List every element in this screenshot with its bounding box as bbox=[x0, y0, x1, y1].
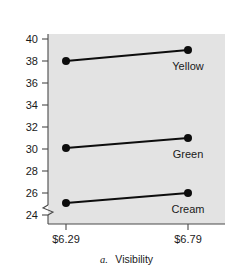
data-point bbox=[184, 189, 192, 197]
y-tick-label-28: 28 bbox=[26, 165, 38, 177]
y-tick-label-30: 30 bbox=[26, 143, 38, 155]
series-label-cream: Cream bbox=[171, 203, 204, 215]
y-tick-label-40: 40 bbox=[26, 33, 38, 45]
x-tick-label-1: $6.29 bbox=[52, 233, 80, 245]
data-point bbox=[184, 134, 192, 142]
y-tick-label-32: 32 bbox=[26, 121, 38, 133]
caption-label: Visibility bbox=[115, 253, 153, 265]
y-tick-label-36: 36 bbox=[26, 77, 38, 89]
y-tick-label-34: 34 bbox=[26, 99, 38, 111]
y-tick-labels: 40 38 36 34 32 30 28 26 24 bbox=[26, 33, 38, 221]
interaction-plot-chart: 40 38 36 34 32 30 28 26 24 $6.29 $6.79 Y… bbox=[0, 0, 235, 277]
caption-prefix: a. bbox=[100, 254, 108, 265]
series-label-green: Green bbox=[173, 148, 204, 160]
y-tick-label-24: 24 bbox=[26, 209, 38, 221]
y-tick-label-38: 38 bbox=[26, 55, 38, 67]
data-point bbox=[62, 57, 70, 65]
chart-svg: 40 38 36 34 32 30 28 26 24 $6.29 $6.79 Y… bbox=[0, 0, 235, 277]
x-tick-label-2: $6.79 bbox=[174, 233, 202, 245]
data-point bbox=[62, 144, 70, 152]
series-label-yellow: Yellow bbox=[172, 60, 203, 72]
y-tick-label-26: 26 bbox=[26, 187, 38, 199]
data-point bbox=[184, 46, 192, 54]
data-point bbox=[62, 199, 70, 207]
